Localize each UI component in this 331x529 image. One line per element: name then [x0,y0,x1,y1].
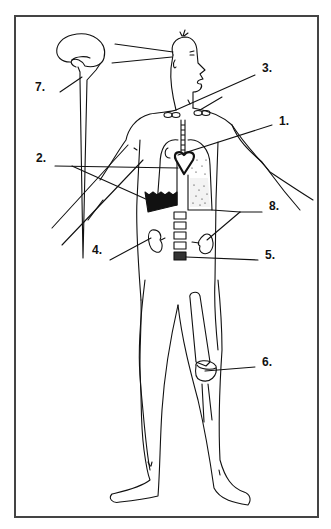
label-5-line [186,257,258,260]
label-4-line [110,238,151,260]
brain-pointer-line-bottom [112,57,172,63]
vertebrae [174,212,186,260]
label-3-line-b [200,97,222,110]
label-5: 5. [265,248,275,262]
left-kidney [149,230,163,252]
diaphragm [145,192,177,212]
brain-pointer-line-top [115,44,173,52]
label-4: 4. [92,243,102,257]
label-7: 7. [35,80,45,94]
brain-and-spinal-cord [57,34,105,258]
label-2: 2. [36,151,46,165]
torso [100,108,313,470]
label-3-line-a [176,75,255,110]
head [171,30,205,110]
arms [52,145,143,245]
label-1: 1. [279,114,289,128]
label-3: 3. [262,61,272,75]
leg-bones [190,292,217,422]
body-diagram [0,0,331,529]
label-8: 8. [269,199,279,213]
label-6: 6. [262,355,272,369]
label-7-line [60,77,82,92]
trachea [181,120,185,155]
label-8-line-c [207,212,240,240]
legs [110,280,250,505]
heart [175,152,194,174]
